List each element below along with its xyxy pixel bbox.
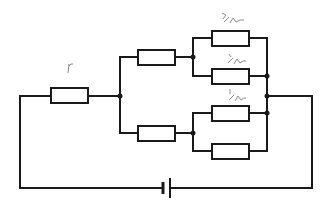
junction-node-lower-merge xyxy=(265,111,270,116)
label-r3-scrawl xyxy=(222,13,244,23)
circuit-diagram: r ½r ½r ½r xyxy=(0,0,330,210)
resistor-r5-body xyxy=(138,126,175,141)
label-r1-scrawl xyxy=(68,64,73,73)
split-a-vertical xyxy=(120,57,138,133)
resistor-r1-body xyxy=(51,88,88,103)
resistor-r6-body xyxy=(212,106,249,121)
resistor-r7-body xyxy=(212,144,249,159)
upper-merge-wire xyxy=(249,38,267,76)
junction-node-b xyxy=(191,55,196,60)
resistor-r3-body xyxy=(212,31,249,46)
resistor-r1: r xyxy=(0,0,120,103)
upper-branch: ½r ½r xyxy=(0,0,270,84)
battery xyxy=(163,178,170,198)
node-a-split xyxy=(118,57,139,133)
node-b-split xyxy=(193,38,212,76)
label-r4-scrawl xyxy=(228,54,246,64)
resistor-r4-body xyxy=(212,69,249,84)
resistor-r2-body xyxy=(138,50,175,65)
label-r6-scrawl xyxy=(229,89,246,101)
node-c-split xyxy=(193,113,212,151)
junction-node-a xyxy=(118,94,123,99)
junction-node-c xyxy=(191,131,196,136)
